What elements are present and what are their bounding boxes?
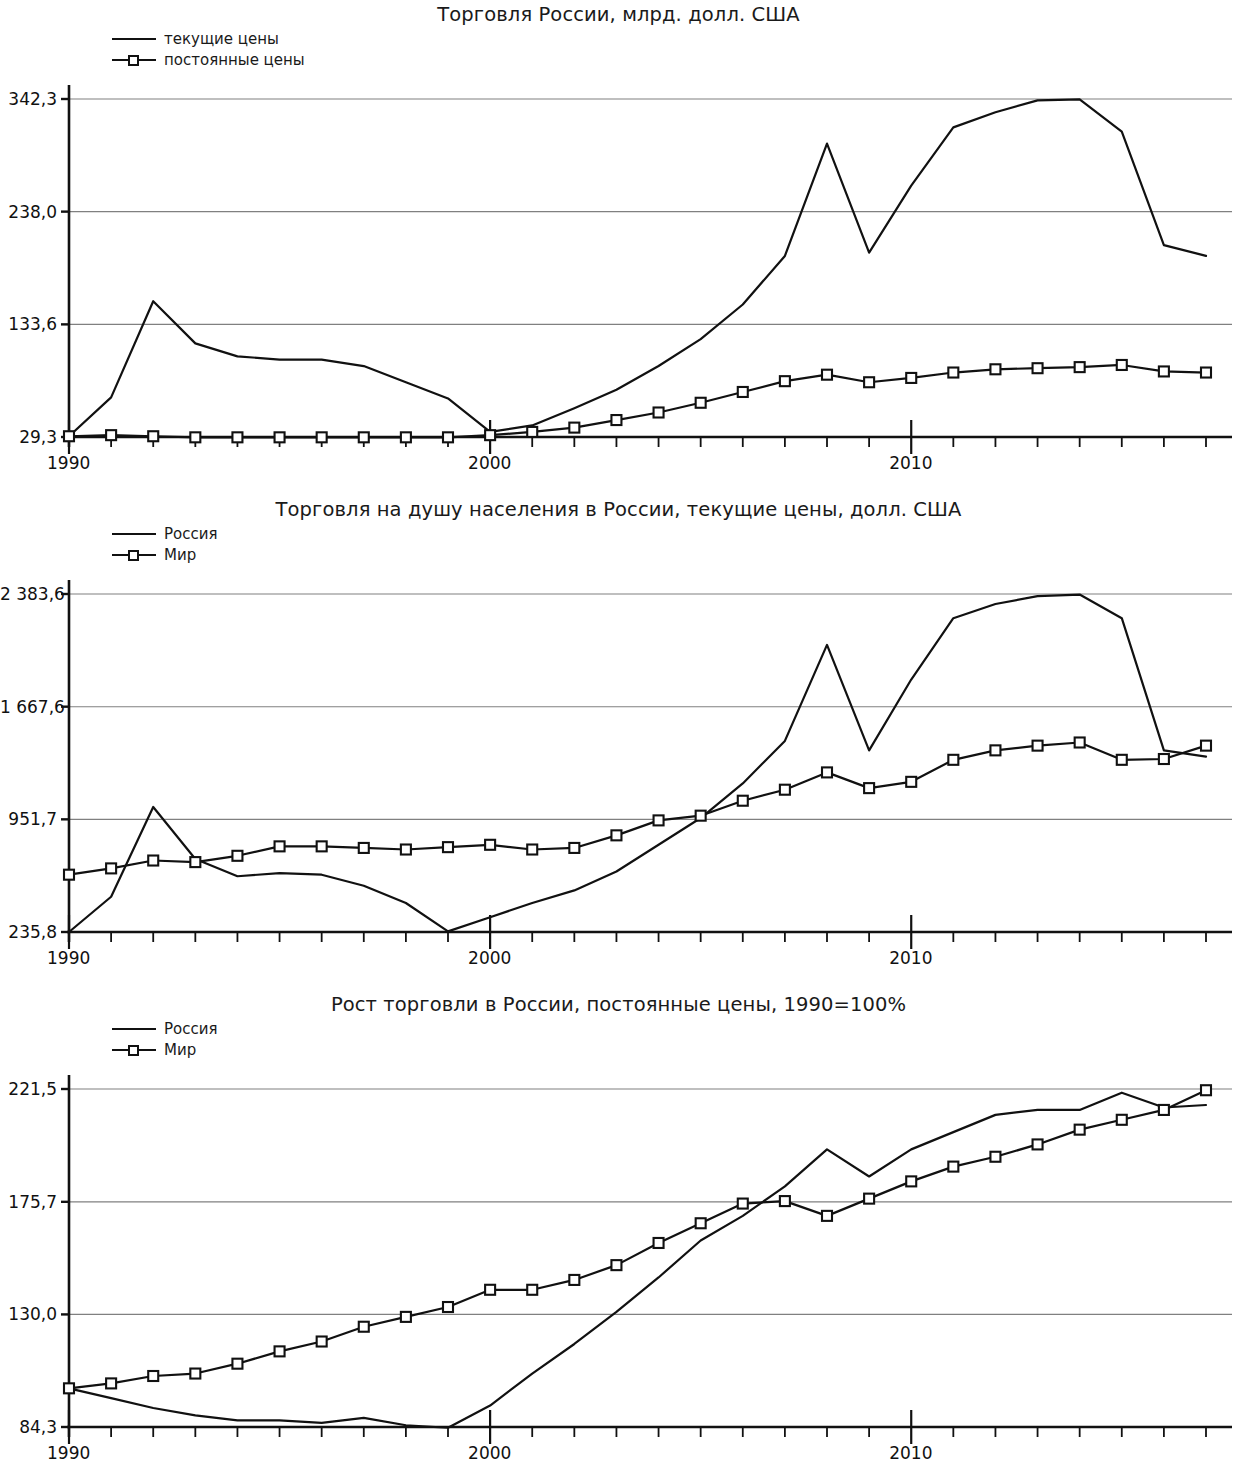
- series-marker: [317, 432, 327, 442]
- series-marker: [654, 1238, 664, 1248]
- legend-label: постоянные цены: [164, 51, 305, 69]
- series-marker: [485, 1285, 495, 1295]
- series-marker: [148, 431, 158, 441]
- series-marker: [275, 432, 285, 442]
- series-line-2: [69, 365, 1206, 437]
- y-axis-tick-label: 1 667,6: [0, 697, 57, 717]
- x-axis-tick-label: 1990: [47, 1443, 90, 1463]
- legend-item-world: Мир: [112, 544, 218, 565]
- series-marker: [864, 783, 874, 793]
- series-marker: [401, 1312, 411, 1322]
- series-marker: [359, 1322, 369, 1332]
- series-marker: [569, 423, 579, 433]
- series-marker: [780, 376, 790, 386]
- y-axis-tick-label: 238,0: [0, 202, 57, 222]
- series-marker: [1033, 1139, 1043, 1149]
- series-marker: [654, 815, 664, 825]
- series-marker: [696, 811, 706, 821]
- series-marker: [948, 368, 958, 378]
- series-marker: [1159, 1105, 1169, 1115]
- y-axis-tick-label: 235,8: [0, 922, 57, 942]
- series-marker: [990, 364, 1000, 374]
- legend-item-russia: Россия: [112, 523, 218, 544]
- series-marker: [906, 1176, 916, 1186]
- series-marker: [906, 777, 916, 787]
- x-axis-tick-label: 1990: [47, 453, 90, 473]
- plot-svg-3: [0, 1075, 1237, 1450]
- x-axis-tick-label: 2000: [468, 453, 511, 473]
- series-marker: [1117, 755, 1127, 765]
- x-axis-tick-label: 2000: [468, 948, 511, 968]
- legend-item-russia: Россия: [112, 1018, 218, 1039]
- chart-legend-2: Россия Мир: [112, 523, 218, 565]
- legend-label: Россия: [164, 1020, 218, 1038]
- series-marker: [443, 432, 453, 442]
- series-marker: [1117, 1115, 1127, 1125]
- series-marker: [738, 387, 748, 397]
- legend-label: Мир: [164, 1041, 196, 1059]
- series-marker: [1159, 366, 1169, 376]
- x-axis-tick-label: 2010: [889, 948, 932, 968]
- series-marker: [864, 1194, 874, 1204]
- series-marker: [232, 1359, 242, 1369]
- series-marker: [106, 863, 116, 873]
- y-axis-tick-label: 951,7: [0, 809, 57, 829]
- series-marker: [148, 1371, 158, 1381]
- series-marker: [696, 398, 706, 408]
- series-marker: [1033, 741, 1043, 751]
- series-marker: [822, 1211, 832, 1221]
- chart-panel-trade-growth: Рост торговли в России, постоянные цены,…: [0, 990, 1237, 1472]
- series-marker: [64, 870, 74, 880]
- line-key-icon: [112, 1022, 156, 1036]
- series-marker: [1201, 741, 1211, 751]
- x-axis-tick-label: 2010: [889, 1443, 932, 1463]
- series-marker: [1033, 363, 1043, 373]
- series-marker: [738, 796, 748, 806]
- chart-panel-trade-per-capita: Торговля на душу населения в России, тек…: [0, 495, 1237, 985]
- line-key-icon: [112, 32, 156, 46]
- series-marker: [359, 843, 369, 853]
- series-line-1: [69, 595, 1206, 932]
- series-marker: [275, 1346, 285, 1356]
- series-marker: [822, 767, 832, 777]
- series-marker: [569, 1275, 579, 1285]
- series-marker: [148, 856, 158, 866]
- series-marker: [401, 845, 411, 855]
- series-marker: [1075, 1125, 1085, 1135]
- x-axis-tick-label: 2000: [468, 1443, 511, 1463]
- series-marker: [106, 1378, 116, 1388]
- plot-area-2: [0, 580, 1237, 955]
- series-marker: [359, 432, 369, 442]
- series-marker: [696, 1218, 706, 1228]
- chart-title-2: Торговля на душу населения в России, тек…: [0, 498, 1237, 521]
- series-marker: [1075, 737, 1085, 747]
- series-marker: [611, 1260, 621, 1270]
- plot-area-1: [0, 85, 1237, 460]
- series-marker: [443, 1302, 453, 1312]
- line-square-key-icon: [112, 53, 156, 67]
- x-axis-tick-label: 2010: [889, 453, 932, 473]
- series-marker: [906, 373, 916, 383]
- series-marker: [569, 843, 579, 853]
- series-marker: [232, 432, 242, 442]
- y-axis-tick-label: 2 383,6: [0, 584, 57, 604]
- series-marker: [1201, 1085, 1211, 1095]
- series-marker: [527, 427, 537, 437]
- series-marker: [822, 370, 832, 380]
- series-marker: [738, 1199, 748, 1209]
- chart-legend-1: текущие цены постоянные цены: [112, 28, 305, 70]
- series-marker: [485, 430, 495, 440]
- series-marker: [780, 785, 790, 795]
- y-axis-tick-label: 342,3: [0, 89, 57, 109]
- series-marker: [990, 745, 1000, 755]
- series-marker: [275, 841, 285, 851]
- series-marker: [106, 430, 116, 440]
- chart-title-3: Рост торговли в России, постоянные цены,…: [0, 993, 1237, 1016]
- series-marker: [1159, 754, 1169, 764]
- legend-item-current-prices: текущие цены: [112, 28, 305, 49]
- series-marker: [1075, 362, 1085, 372]
- series-marker: [1117, 360, 1127, 370]
- series-marker: [990, 1152, 1000, 1162]
- chart-title-1: Торговля России, млрд. долл. США: [0, 3, 1237, 26]
- series-marker: [527, 845, 537, 855]
